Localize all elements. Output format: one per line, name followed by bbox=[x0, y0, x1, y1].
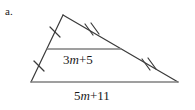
base-length-label: 5m+11 bbox=[74, 88, 110, 104]
tick-mark-left-upper-single bbox=[50, 27, 60, 37]
midsegment-constant: 5 bbox=[86, 52, 93, 67]
problem-label: a. bbox=[5, 5, 13, 17]
midsegment-length-label: 3m+5 bbox=[63, 52, 93, 68]
midsegment-variable: m bbox=[70, 52, 79, 67]
base-variable: m bbox=[81, 88, 90, 103]
tick-mark-left-lower-single bbox=[34, 61, 44, 71]
figure-container: a. 3m+5 5m+11 bbox=[0, 0, 195, 110]
base-constant: 11 bbox=[97, 88, 110, 103]
